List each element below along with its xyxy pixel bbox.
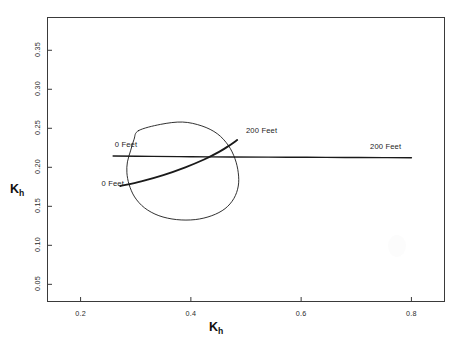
x-axis-title-subscript: h bbox=[218, 326, 223, 336]
y-axis-title-base: K bbox=[10, 182, 19, 196]
plot-annotation: 0 Feet bbox=[115, 140, 137, 149]
x-tick-label: 0.2 bbox=[72, 309, 90, 318]
y-axis-ticks bbox=[48, 50, 53, 284]
series-horizontal-line-0-to-200-feet bbox=[113, 156, 411, 158]
y-tick-label: 0.15 bbox=[32, 195, 41, 217]
x-tick-label: 0.4 bbox=[182, 309, 200, 318]
scan-artifact bbox=[388, 235, 406, 257]
plot-canvas bbox=[0, 0, 464, 347]
series-confidence-region-contour bbox=[127, 122, 239, 220]
y-tick-label: 0.05 bbox=[32, 273, 41, 295]
plot-annotation: 200 Feet bbox=[370, 142, 401, 151]
y-tick-label: 0.30 bbox=[32, 78, 41, 100]
plot-frame bbox=[48, 18, 445, 302]
y-tick-label: 0.25 bbox=[32, 117, 41, 139]
x-axis-ticks bbox=[81, 297, 412, 302]
x-axis-title-base: K bbox=[209, 320, 218, 334]
plot-annotation: 200 Feet bbox=[246, 126, 277, 135]
chart-figure: 0.20.40.60.8 0.050.100.150.200.250.300.3… bbox=[0, 0, 464, 347]
x-axis-title: Kh bbox=[209, 320, 223, 334]
y-axis-title-subscript: h bbox=[19, 188, 24, 198]
data-series-group bbox=[113, 122, 411, 220]
plot-annotation: 0 Feet bbox=[102, 179, 124, 188]
series-upward-trend-line-0-to-200-feet bbox=[120, 140, 237, 186]
y-axis-title: Kh bbox=[10, 182, 24, 196]
y-tick-label: 0.35 bbox=[32, 39, 41, 61]
y-tick-label: 0.10 bbox=[32, 234, 41, 256]
x-tick-label: 0.6 bbox=[292, 309, 310, 318]
y-tick-label: 0.20 bbox=[32, 156, 41, 178]
x-tick-label: 0.8 bbox=[402, 309, 420, 318]
